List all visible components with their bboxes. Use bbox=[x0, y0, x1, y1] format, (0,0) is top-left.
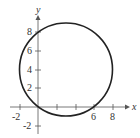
x-tick-label-8: 8 bbox=[110, 111, 115, 122]
y-tick-label-6: 6 bbox=[27, 45, 32, 56]
x-axis-label: x bbox=[131, 101, 137, 112]
y-tick-label-neg2: -2 bbox=[23, 120, 31, 131]
y-tick-label-4: 4 bbox=[27, 64, 32, 75]
circle-curve bbox=[20, 23, 113, 116]
y-axis-arrow-icon bbox=[36, 15, 41, 20]
x-tick-label-neg2: -2 bbox=[12, 111, 20, 122]
x-tick-label-6: 6 bbox=[91, 111, 96, 122]
chart: -2 6 8 8 6 4 2 -2 x y bbox=[0, 0, 140, 138]
y-axis-label: y bbox=[35, 4, 41, 15]
x-axis-arrow-icon bbox=[125, 105, 130, 110]
y-tick-label-2: 2 bbox=[27, 82, 32, 93]
y-tick-label-8: 8 bbox=[27, 26, 32, 37]
